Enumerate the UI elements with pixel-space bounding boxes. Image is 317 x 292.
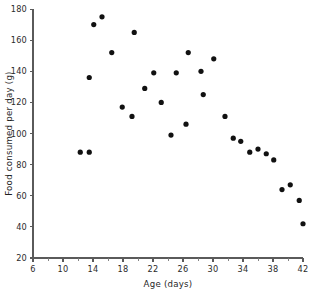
x-tick-label: 26 [178,264,189,274]
data-point [78,150,83,155]
data-point [255,146,260,151]
data-point [132,30,137,35]
axes-group [33,9,303,258]
x-axis-title: Age (days) [144,279,193,289]
data-point [222,114,227,119]
y-tick-label: 180 [11,4,27,14]
x-tick-label: 18 [118,264,129,274]
data-point [87,75,92,80]
y-tick-label: 60 [16,191,27,201]
data-point [168,132,173,137]
data-point [288,182,293,187]
data-point [271,157,276,162]
data-points-group [78,14,306,226]
x-tick-label: 42 [298,264,309,274]
data-point [264,151,269,156]
data-point [201,92,206,97]
data-point [297,198,302,203]
x-tick-label: 6 [30,264,35,274]
scatter-chart: 20406080100120140160180 6101418222630343… [0,0,317,292]
x-tick-label: 38 [268,264,279,274]
data-point [151,70,156,75]
y-tick-label: 20 [16,253,27,263]
data-point [142,86,147,91]
data-point [231,136,236,141]
data-point [99,14,104,19]
data-point [247,150,252,155]
y-axis-ticks: 20406080100120140160180 [11,4,33,263]
plot-canvas: 20406080100120140160180 6101418222630343… [0,0,317,292]
y-tick-label: 160 [11,35,27,45]
y-tick-label: 40 [16,222,27,232]
data-point [91,22,96,27]
y-tick-label: 80 [16,160,27,170]
data-point [129,114,134,119]
data-point [186,50,191,55]
data-point [238,139,243,144]
data-point [159,100,164,105]
data-point [279,187,284,192]
data-point [211,56,216,61]
x-tick-label: 14 [88,264,99,274]
data-point [87,150,92,155]
data-point [198,69,203,74]
x-axis-ticks: 6101418222630343842 [30,258,308,274]
data-point [120,104,125,109]
y-axis-title: Food consumed per day (g) [4,71,14,196]
data-point [174,70,179,75]
x-tick-label: 22 [148,264,159,274]
data-point [183,122,188,127]
x-tick-label: 10 [58,264,69,274]
x-tick-label: 30 [208,264,219,274]
x-tick-label: 34 [238,264,249,274]
data-point [300,221,305,226]
data-point [109,50,114,55]
